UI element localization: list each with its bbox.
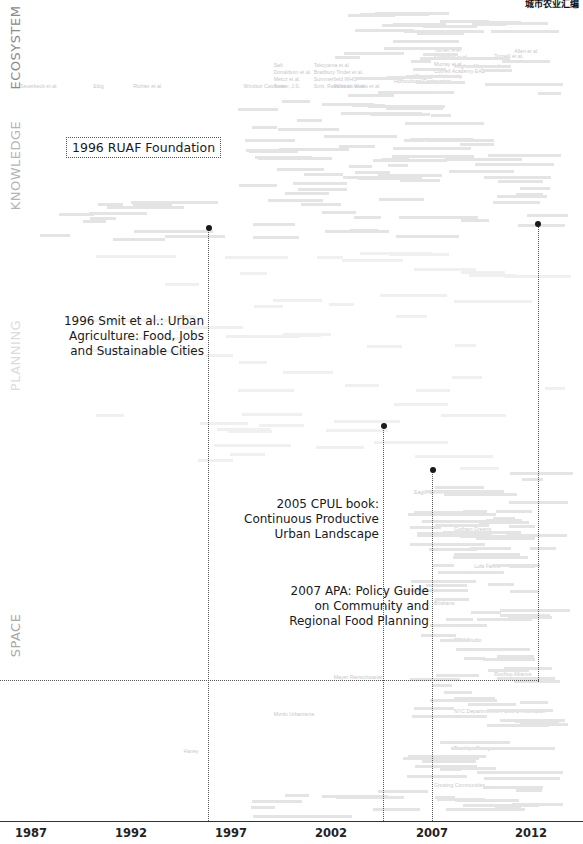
publication-name-texture — [89, 212, 147, 215]
publication-name-texture — [520, 187, 550, 190]
publication-name-texture — [455, 344, 476, 347]
publication-name-texture — [545, 387, 565, 390]
publication-name-texture — [510, 472, 572, 475]
annotation-line: Regional Food Planning — [262, 614, 429, 629]
publication-name-texture — [293, 182, 347, 185]
publication-name-texture — [396, 315, 427, 318]
publication-name-texture — [301, 203, 342, 206]
publication-name-texture — [225, 256, 288, 259]
publication-name-texture — [430, 624, 487, 627]
publication-name-texture — [252, 800, 303, 803]
publication-name-texture — [350, 229, 378, 232]
publication-name-texture — [198, 459, 233, 462]
annotation-apa-2007: 2007 APA: Policy Guide on Community and … — [262, 584, 429, 629]
publication-name-texture — [522, 478, 543, 481]
publication-name-texture — [433, 564, 455, 567]
publication-name-texture — [206, 354, 233, 357]
publication-name-texture — [379, 198, 424, 201]
publication-name-texture — [413, 68, 446, 71]
publication-name-texture — [488, 583, 514, 586]
publication-name-texture — [113, 238, 165, 241]
publication-name-texture — [131, 201, 192, 204]
publication-name-texture — [452, 376, 482, 379]
publication-name-texture — [317, 256, 343, 259]
publication-name-texture — [404, 139, 426, 142]
publication-name-texture — [431, 114, 451, 117]
publication-name: Rooftop Alliance — [494, 671, 532, 677]
milestone-dot-2007 — [430, 467, 436, 473]
publication-name-texture — [324, 135, 397, 138]
publication-name-texture — [483, 658, 536, 661]
band-label-space: SPACE — [2, 580, 30, 690]
publication-name-texture — [96, 255, 176, 258]
publication-name-texture — [456, 648, 530, 651]
publication-name-texture — [445, 158, 522, 161]
publication-name-texture — [487, 709, 553, 712]
publication-name-texture — [489, 163, 554, 166]
publication-name-texture — [354, 216, 381, 219]
publication-name-texture — [504, 667, 553, 670]
publication-name: Salt — [274, 62, 283, 68]
publication-name-texture — [438, 571, 504, 574]
publication-name-texture — [460, 143, 494, 146]
publication-name-texture — [416, 389, 450, 392]
publication-name-texture — [253, 236, 299, 239]
annotation-cpul-2005: 2005 CPUL book: Continuous Productive Ur… — [230, 497, 379, 542]
publication-name-texture — [367, 345, 402, 348]
publication-name-texture — [238, 389, 293, 392]
publication-name-texture — [440, 639, 470, 642]
publication-name-texture — [386, 107, 443, 110]
publication-name-texture — [426, 139, 493, 142]
publication-name-texture — [460, 467, 499, 470]
publication-name-texture — [165, 235, 225, 238]
publication-name: Allen et al. — [514, 48, 538, 54]
timeline-chart: 城市农业汇编 ECOSYSTEM KNOWLEDGE PLANNING SPAC… — [0, 0, 583, 844]
publication-name-texture — [373, 159, 447, 162]
publication-name-texture — [329, 303, 354, 306]
publication-name-texture — [400, 179, 440, 182]
publication-name-texture — [440, 768, 461, 771]
publication-name-texture — [509, 525, 535, 528]
annotation-line: Urban Landscape — [230, 527, 379, 542]
publication-name-texture — [355, 29, 414, 32]
publication-name-texture — [277, 168, 325, 171]
publication-name-texture — [451, 747, 502, 750]
publication-name-texture — [335, 56, 360, 59]
publication-name-texture — [40, 234, 70, 237]
publication-name-texture — [370, 113, 430, 116]
publication-name-texture — [403, 757, 479, 760]
milestone-dot-2012 — [535, 221, 541, 227]
publication-name-texture — [348, 94, 394, 97]
space-guide-line — [0, 680, 539, 681]
band-label-text: ECOSYSTEM — [9, 6, 24, 90]
publication-name-texture — [407, 775, 467, 778]
publication-name-texture — [497, 195, 547, 198]
publication-name-texture — [96, 414, 124, 417]
publication-name-texture — [316, 446, 364, 449]
publication-name-texture — [411, 60, 431, 63]
publication-name-texture — [520, 723, 568, 726]
annotation-line: 2005 CPUL book: — [230, 497, 379, 512]
publication-name-texture — [454, 697, 495, 700]
publication-name-texture — [444, 691, 472, 694]
publication-name: Weiss et al. — [354, 83, 381, 89]
publication-name: Haney — [183, 748, 198, 754]
publication-name-texture — [283, 333, 331, 336]
publication-name-texture — [388, 164, 408, 167]
publication-name-texture — [445, 57, 510, 60]
publication-name-texture — [491, 30, 551, 33]
publication-name-texture — [488, 154, 561, 157]
band-label-text: PLANNING — [9, 319, 24, 390]
publication-name-texture — [297, 119, 322, 122]
publication-name-texture — [415, 455, 493, 458]
publication-name: Summerfield WHO — [314, 76, 357, 82]
publication-name-texture — [417, 32, 464, 35]
publication-name: Ettig — [93, 83, 103, 89]
publication-name-texture — [322, 211, 356, 214]
publication-name-texture — [393, 147, 471, 150]
publication-name-texture — [446, 808, 525, 811]
publication-name-texture — [279, 148, 349, 151]
publication-name-texture — [83, 220, 106, 223]
publication-name-texture — [411, 580, 476, 583]
publication-name-texture — [396, 235, 459, 238]
